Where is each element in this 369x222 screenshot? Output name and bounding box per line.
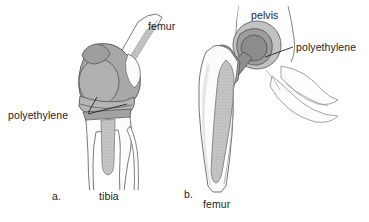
hip-diagram: [199, 6, 338, 192]
knee-diagram: [79, 14, 162, 196]
figure-container: femur polyethylene a. tibia pelvis polye…: [0, 0, 369, 222]
label-femur-hip: femur: [203, 199, 230, 210]
label-polyethylene-hip: polyethylene: [296, 42, 356, 53]
tibial-stem-knee: [101, 119, 115, 175]
label-pelvis: pelvis: [251, 10, 278, 21]
label-tibia: tibia: [99, 191, 119, 202]
panel-letter-a: a.: [52, 191, 61, 202]
label-femur-knee: femur: [148, 21, 175, 32]
label-polyethylene-knee: polyethylene: [8, 110, 68, 121]
panel-letter-b: b.: [184, 189, 193, 200]
